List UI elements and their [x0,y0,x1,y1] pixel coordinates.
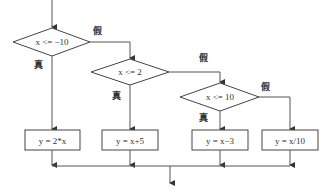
decision-2-false-label: 假 [199,52,209,63]
decision-node-3: x <= 10 [180,83,259,111]
edge-d3-false [259,97,290,129]
decision-3-false-label: 假 [261,81,271,92]
edge-d1-false [90,42,130,58]
process-node-3: y = x−3 [192,130,248,150]
process-4-label: y = x/10 [275,136,306,146]
process-node-2: y = x+5 [102,130,158,150]
process-1-label: y = 2*x [39,136,67,146]
process-node-1: y = 2*x [25,130,80,150]
decision-node-2: x <= 2 [91,59,169,85]
flowchart-canvas: x <= −10 假 真 x <= 2 假 真 x <= 10 假 真 y = … [0,0,328,195]
decision-2-true-label: 真 [112,90,121,101]
decision-3-true-label: 真 [199,112,208,123]
process-node-4: y = x/10 [262,130,318,150]
decision-2-label: x <= 2 [118,67,142,77]
decision-1-false-label: 假 [93,25,103,36]
process-3-label: y = x−3 [206,136,235,146]
decision-1-label: x <= −10 [35,37,69,47]
process-2-label: y = x+5 [116,136,145,146]
decision-1-true-label: 真 [34,59,43,70]
decision-node-1: x <= −10 [13,28,90,56]
edge-d2-false [169,72,220,82]
decision-3-label: x <= 10 [206,92,235,102]
